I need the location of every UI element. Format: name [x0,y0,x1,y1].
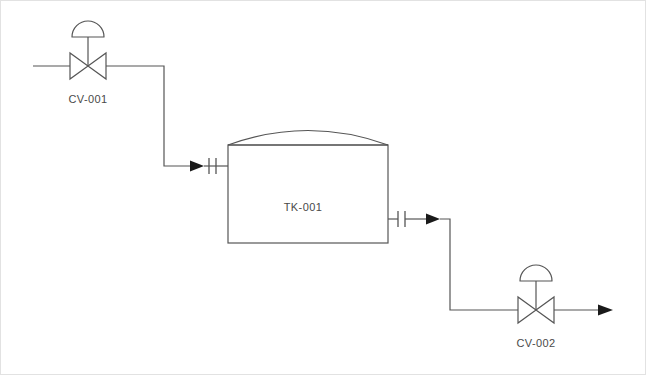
outlet-flow-arrow [426,214,440,225]
inlet-pipe-run [106,66,190,166]
inlet-flow-arrow [190,161,204,172]
storage-tank-tk-001[interactable] [228,131,388,244]
pid-canvas: CV-001 TK-001 [0,0,646,375]
cv-002-actuator-icon [520,265,552,281]
cv-001-actuator-icon [72,21,104,37]
outlet-stream [388,214,613,316]
tk-001-dome-head [228,131,388,146]
pid-diagram: CV-001 TK-001 [0,0,646,375]
inlet-stream [33,66,228,172]
cv-001-tag-label: CV-001 [68,93,107,105]
cv-002-tag-label: CV-002 [516,337,555,349]
control-valve-cv-001[interactable] [70,21,106,79]
cv-002-body-left [518,297,536,323]
outlet-pipe-run [440,219,518,310]
outlet-flange [398,211,405,227]
control-valve-cv-002[interactable] [518,265,554,323]
outlet-terminal-arrow [598,305,613,316]
cv-001-body-right [88,53,106,79]
tk-001-tag-label: TK-001 [284,201,322,213]
tk-001-shell [228,145,388,243]
cv-002-body-right [536,297,554,323]
cv-001-body-left [70,53,88,79]
